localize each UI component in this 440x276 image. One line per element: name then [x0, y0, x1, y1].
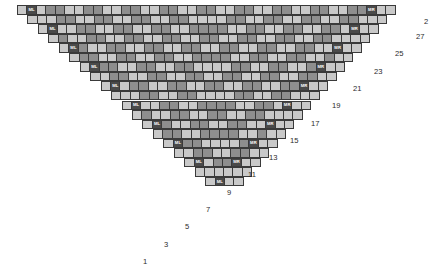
chart-cell — [318, 81, 328, 91]
chart-row — [132, 110, 302, 119]
chart-cell — [385, 5, 395, 15]
chart-row: MLMR — [17, 5, 395, 14]
chart-row — [69, 53, 352, 62]
row-number-label: 19 — [332, 102, 340, 110]
chart-row — [153, 129, 285, 138]
chart-cell — [250, 158, 260, 168]
chart-cell — [292, 110, 302, 120]
chart-row: MLMR — [59, 43, 361, 52]
row-number-label: 23 — [374, 68, 382, 76]
chart-row: ML — [205, 177, 243, 186]
chart-cell — [335, 62, 345, 72]
row-number-label: 1 — [143, 258, 147, 266]
chart-row: MLMR — [38, 24, 378, 33]
row-number-label: 25 — [395, 50, 403, 58]
row-number-label: 9 — [227, 189, 231, 197]
chart-row: MLMR — [101, 81, 328, 90]
row-number-label: 11 — [248, 171, 256, 179]
chart-row: MLMR — [163, 139, 276, 148]
chart-cell — [343, 53, 353, 63]
row-number-label: 21 — [353, 85, 361, 93]
row-number-label: 3 — [164, 241, 168, 249]
chart-cell — [284, 120, 294, 130]
chart-cell — [267, 139, 277, 149]
chart-cell — [309, 91, 319, 101]
chart-cell — [368, 24, 378, 34]
chart-cell — [233, 177, 243, 187]
chart-row — [174, 148, 268, 157]
knitting-chart: MLMRMLMRMLMRMLMRMLMRMLMRMLMRMLMRMLMRML22… — [0, 0, 440, 276]
chart-row — [195, 167, 252, 176]
row-number-label: 7 — [206, 206, 210, 214]
row-number-label: 5 — [185, 223, 189, 231]
chart-row: MLMR — [142, 120, 293, 129]
chart-row — [48, 34, 369, 43]
chart-row: MLMR — [80, 62, 344, 71]
row-number-label: 2 — [424, 18, 428, 26]
row-number-label: 13 — [269, 154, 277, 162]
row-number-label: 15 — [290, 137, 298, 145]
chart-row — [90, 72, 335, 81]
chart-row — [27, 15, 386, 24]
chart-cell — [326, 72, 336, 82]
chart-cell — [377, 15, 387, 25]
chart-row: MLMR — [184, 158, 260, 167]
chart-cell — [351, 43, 361, 53]
chart-cell — [301, 101, 311, 111]
row-number-label: 17 — [311, 120, 319, 128]
chart-row: MLMR — [122, 101, 311, 110]
chart-cell — [276, 129, 286, 139]
chart-cell — [360, 34, 370, 44]
chart-row — [111, 91, 319, 100]
chart-cell — [259, 148, 269, 158]
row-number-label: 27 — [416, 33, 424, 41]
